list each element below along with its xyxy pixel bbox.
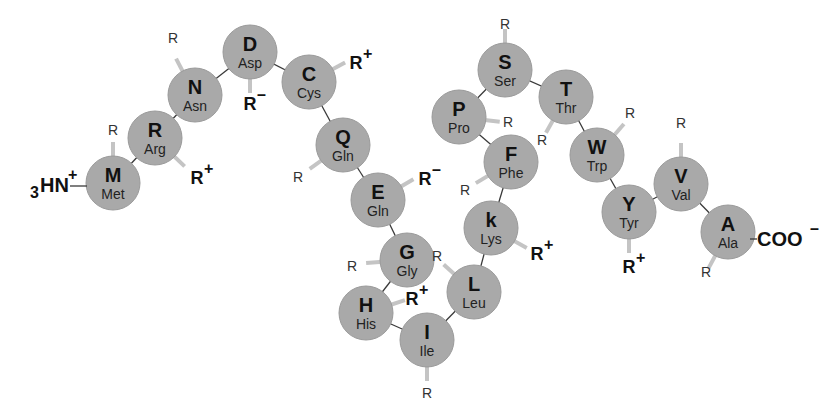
side-chain-label: R bbox=[168, 30, 178, 46]
side-chain-label: R bbox=[191, 168, 204, 188]
residue-name: Ile bbox=[420, 343, 435, 359]
residue-tyr: YTyr bbox=[602, 185, 656, 239]
residue-gln: EGln bbox=[351, 173, 405, 227]
side-chain-label: R bbox=[422, 385, 432, 401]
residue-code: V bbox=[674, 165, 688, 187]
side-chain-label: R bbox=[293, 169, 303, 185]
side-chain-label: R bbox=[701, 264, 711, 280]
side-chain-label: R bbox=[350, 53, 363, 73]
residue-name: Lys bbox=[480, 231, 501, 247]
side-chain-label: R bbox=[460, 182, 470, 198]
residue-code: I bbox=[424, 321, 430, 343]
residue-code: T bbox=[560, 78, 572, 100]
residue-name: His bbox=[356, 316, 376, 332]
c-terminus: COO – bbox=[750, 220, 819, 250]
side-chain-label: R bbox=[503, 114, 513, 130]
residue-code: Y bbox=[622, 193, 636, 215]
side-chain-charge: + bbox=[419, 281, 428, 298]
residue-code: R bbox=[148, 119, 163, 141]
residue-name: Leu bbox=[462, 295, 485, 311]
residue-gln: QGln bbox=[316, 118, 370, 172]
residue-name: Val bbox=[671, 187, 690, 203]
n-terminus-charge: + bbox=[68, 166, 77, 183]
n-terminus-prefix: 3 bbox=[30, 184, 39, 201]
residue-name: Cys bbox=[297, 85, 321, 101]
residue-code: F bbox=[505, 143, 517, 165]
side-chain-label: R bbox=[432, 248, 442, 264]
side-chain-label: R bbox=[531, 244, 544, 264]
peptide-diagram: MMetRArgNAsnDAspCCysQGlnEGlnGGlyHHisIIle… bbox=[0, 0, 835, 409]
side-chain-charge: + bbox=[204, 160, 213, 177]
side-chain-label: R bbox=[406, 289, 419, 309]
residue-arg: RArg bbox=[128, 111, 182, 165]
residue-name: Tyr bbox=[619, 215, 639, 231]
side-chain-label: R bbox=[244, 94, 257, 114]
residue-asn: NAsn bbox=[168, 68, 222, 122]
side-chain-label: R bbox=[537, 132, 547, 148]
residue-name: Asp bbox=[238, 55, 262, 71]
residue-code: Q bbox=[335, 126, 351, 148]
residue-his: HHis bbox=[339, 286, 393, 340]
residue-name: Gly bbox=[397, 263, 418, 279]
side-chain-label: R bbox=[625, 105, 635, 121]
residue-code: W bbox=[588, 136, 607, 158]
n-terminus-label: HN bbox=[40, 174, 69, 196]
residue-cys: CCys bbox=[282, 55, 336, 109]
n-terminus: 3 HN + bbox=[30, 166, 87, 201]
side-chain-label: R bbox=[347, 258, 357, 274]
residue-code: P bbox=[452, 98, 465, 120]
residue-ala: AAla bbox=[701, 205, 755, 259]
side-chain-charge: – bbox=[432, 161, 441, 178]
residue-name: Ser bbox=[494, 73, 516, 89]
side-chain-label: R bbox=[108, 122, 118, 138]
residue-leu: LLeu bbox=[447, 265, 501, 319]
residue-ser: SSer bbox=[478, 43, 532, 97]
residue-code: S bbox=[498, 51, 511, 73]
residue-code: E bbox=[371, 181, 384, 203]
residue-code: A bbox=[721, 213, 735, 235]
residue-thr: TThr bbox=[539, 70, 593, 124]
residues: MMetRArgNAsnDAspCCysQGlnEGlnGGlyHHisIIle… bbox=[86, 25, 755, 367]
residue-name: Thr bbox=[556, 100, 577, 116]
residue-code: C bbox=[302, 63, 316, 85]
side-chain-charge: – bbox=[257, 86, 266, 103]
residue-code: L bbox=[468, 273, 480, 295]
residue-code: D bbox=[243, 33, 257, 55]
residue-name: Gln bbox=[332, 148, 354, 164]
residue-trp: WTrp bbox=[570, 128, 624, 182]
residue-gly: GGly bbox=[380, 233, 434, 287]
side-chain-label: R bbox=[500, 16, 510, 32]
residue-lys: kLys bbox=[464, 201, 518, 255]
residue-met: MMet bbox=[86, 156, 140, 210]
side-chain-label: R bbox=[419, 169, 432, 189]
residue-code: k bbox=[485, 209, 497, 231]
residue-name: Met bbox=[101, 186, 124, 202]
c-terminus-label: COO bbox=[757, 228, 803, 250]
residue-ile: IIle bbox=[400, 313, 454, 367]
c-terminus-charge: – bbox=[810, 220, 819, 237]
side-chain-charge: + bbox=[544, 236, 553, 253]
side-chain-charge: + bbox=[636, 249, 645, 266]
residue-code: M bbox=[105, 164, 122, 186]
residue-name: Pro bbox=[448, 120, 470, 136]
residue-phe: FPhe bbox=[484, 135, 538, 189]
side-chain-charge: + bbox=[363, 45, 372, 62]
residue-code: H bbox=[359, 294, 373, 316]
residue-name: Trp bbox=[587, 158, 608, 174]
residue-name: Asn bbox=[183, 98, 207, 114]
residue-name: Phe bbox=[499, 165, 524, 181]
side-chain-label: R bbox=[623, 257, 636, 277]
residue-code: G bbox=[399, 241, 415, 263]
residue-asp: DAsp bbox=[223, 25, 277, 79]
residue-name: Ala bbox=[718, 235, 738, 251]
residue-name: Gln bbox=[367, 203, 389, 219]
residue-val: VVal bbox=[654, 157, 708, 211]
residue-name: Arg bbox=[144, 141, 166, 157]
side-chain-label: R bbox=[676, 115, 686, 131]
residue-pro: PPro bbox=[432, 90, 486, 144]
residue-code: N bbox=[188, 76, 202, 98]
